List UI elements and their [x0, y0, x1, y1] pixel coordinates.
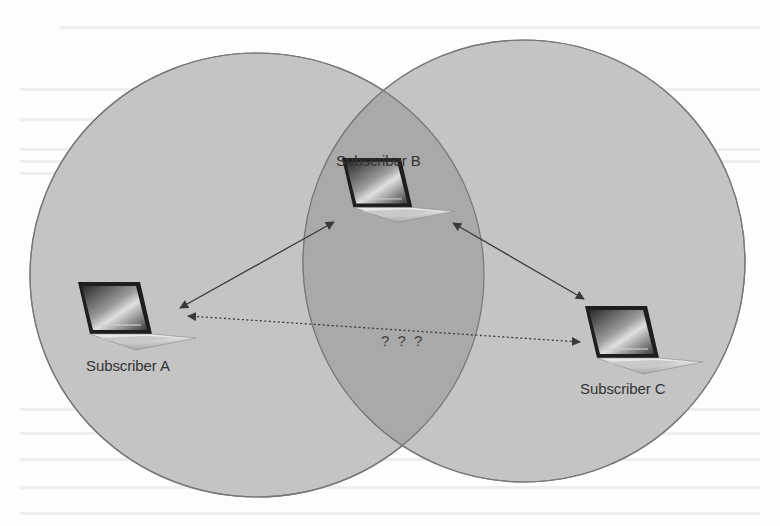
subscriber-b-label: Subscriber B	[336, 152, 421, 169]
subscriber-a-label: Subscriber A	[86, 357, 170, 374]
unknown-link-label: ? ? ?	[381, 332, 424, 349]
network-diagram	[0, 0, 780, 526]
subscriber-c-label: Subscriber C	[580, 380, 666, 397]
